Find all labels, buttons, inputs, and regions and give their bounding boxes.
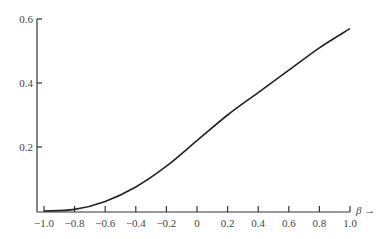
y-tick-label: 0.4: [19, 77, 33, 89]
y-tick-label: 0.2: [19, 141, 33, 153]
x-tick-label: 0.4: [251, 217, 265, 229]
x-tick-label: 0.8: [313, 217, 327, 229]
y-axis: 0.20.40.6: [19, 13, 42, 212]
x-tick-label: 0.2: [221, 217, 235, 229]
x-tick-label: 1.0: [343, 217, 357, 229]
data-curve: [44, 29, 350, 211]
y-tick-label: 0.6: [19, 13, 33, 25]
x-tick-label: −0.4: [126, 217, 146, 229]
x-tick-label: −1.0: [34, 217, 54, 229]
line-chart: 0.20.40.6 −1.0−0.8−0.6−0.4−0.200.20.40.6…: [0, 0, 389, 239]
x-tick-label: −0.2: [156, 217, 176, 229]
x-axis-label: β →: [355, 204, 375, 216]
x-tick-label: −0.8: [65, 217, 85, 229]
x-axis: −1.0−0.8−0.6−0.4−0.200.20.40.60.81.0: [34, 206, 357, 229]
x-tick-label: 0.6: [282, 217, 296, 229]
x-tick-label: −0.6: [95, 217, 115, 229]
x-tick-label: 0: [194, 217, 200, 229]
